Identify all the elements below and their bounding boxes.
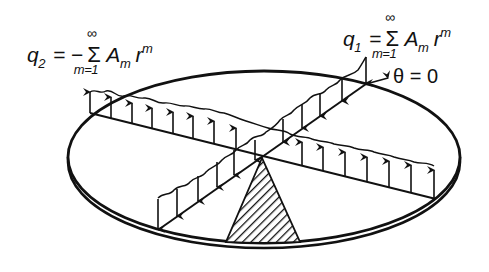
sum-lower-limit: m=1 [372, 46, 396, 61]
theta-zero-label: θ = 0 [393, 65, 438, 88]
summation: ∞Σm=1 [384, 26, 400, 52]
q1-equation: q1 =∞Σm=1 Am rm [343, 26, 451, 52]
q1-subscript: 1 [354, 40, 361, 55]
coefficient-a: A [405, 27, 419, 50]
coefficient-subscript: m [120, 56, 130, 71]
sum-upper-limit: ∞ [87, 25, 96, 41]
radius-exponent: m [142, 41, 152, 56]
summation: ∞Σm=1 [86, 42, 102, 68]
equals-sign: = [50, 43, 68, 66]
q2-equation: q2 =−∞Σm=1 Am rm [27, 42, 152, 68]
sum-upper-limit: ∞ [385, 9, 394, 25]
coefficient-subscript: m [418, 40, 428, 55]
sum-lower-limit: m=1 [74, 62, 98, 77]
q2-subscript: 2 [38, 56, 45, 71]
theta-zero-arrow [366, 78, 388, 84]
radius-exponent: m [440, 25, 450, 40]
q2-symbol: q [27, 43, 38, 66]
coefficient-a: A [106, 43, 120, 66]
q1-symbol: q [343, 27, 354, 50]
